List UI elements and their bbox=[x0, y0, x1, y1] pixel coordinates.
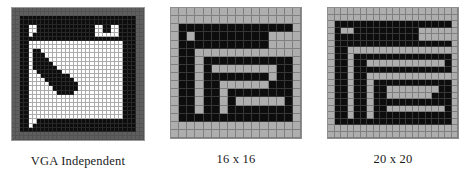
bitmap-cell bbox=[293, 49, 301, 57]
bitmap-cell bbox=[171, 130, 179, 138]
bitmap-cell bbox=[171, 24, 179, 32]
bitmap-cell bbox=[236, 16, 244, 24]
bitmap-cell bbox=[452, 132, 459, 139]
bitmap-cell bbox=[252, 130, 260, 138]
bitmap-cell bbox=[236, 114, 244, 122]
bitmap-cell bbox=[220, 114, 228, 122]
bitmap-cell bbox=[212, 32, 220, 40]
bitmap-cell bbox=[277, 49, 285, 57]
bitmap-cell bbox=[171, 32, 179, 40]
bitmap-cell bbox=[260, 122, 268, 130]
bitmap-cell bbox=[204, 106, 212, 114]
bitmap-cell bbox=[212, 24, 220, 32]
bitmap-cell bbox=[236, 65, 244, 73]
bitmap-cell bbox=[236, 81, 244, 89]
bitmap-cell bbox=[236, 32, 244, 40]
bitmap-cell bbox=[293, 106, 301, 114]
bitmap-cell bbox=[187, 114, 195, 122]
bitmap-cell bbox=[195, 106, 203, 114]
bitmap-cell bbox=[171, 65, 179, 73]
bitmap-cell bbox=[277, 130, 285, 138]
bitmap-cell bbox=[285, 73, 293, 81]
bitmap-cell bbox=[179, 8, 187, 16]
bitmap-cell bbox=[171, 97, 179, 105]
bitmap-cell bbox=[269, 41, 277, 49]
bitmap-cell bbox=[179, 57, 187, 65]
bitmap-cell bbox=[244, 89, 252, 97]
bitmap-cell bbox=[285, 89, 293, 97]
bitmap-cell bbox=[212, 8, 220, 16]
caption-vga-independent: VGA Independent bbox=[31, 154, 125, 169]
bitmap-cell bbox=[187, 130, 195, 138]
bitmap-icon-16x16 bbox=[171, 8, 301, 138]
bitmap-cell bbox=[204, 16, 212, 24]
bitmap-cell bbox=[228, 130, 236, 138]
bitmap-cell bbox=[195, 73, 203, 81]
bitmap-cell bbox=[204, 41, 212, 49]
bitmap-cell bbox=[212, 41, 220, 49]
bitmap-cell bbox=[269, 49, 277, 57]
bitmap-cell bbox=[187, 65, 195, 73]
bitmap-cell bbox=[212, 114, 220, 122]
bitmap-cell bbox=[277, 8, 285, 16]
bitmap-cell bbox=[293, 97, 301, 105]
bitmap-cell bbox=[204, 65, 212, 73]
bitmap-cell bbox=[204, 32, 212, 40]
bitmap-cell bbox=[269, 130, 277, 138]
bitmap-cell bbox=[187, 49, 195, 57]
bitmap-cell bbox=[236, 41, 244, 49]
bitmap-cell bbox=[195, 32, 203, 40]
bitmap-cell bbox=[252, 81, 260, 89]
bitmap-cell bbox=[195, 41, 203, 49]
bitmap-cell bbox=[277, 97, 285, 105]
bitmap-cell bbox=[179, 81, 187, 89]
bitmap-cell bbox=[260, 49, 268, 57]
bitmap-cell bbox=[171, 16, 179, 24]
bitmap-cell bbox=[244, 114, 252, 122]
caption-icon-20x20: 20 x 20 bbox=[374, 152, 413, 167]
bitmap-cell bbox=[228, 114, 236, 122]
bitmap-cell bbox=[228, 97, 236, 105]
bitmap-cell bbox=[236, 89, 244, 97]
bitmap-cell bbox=[244, 73, 252, 81]
bitmap-cell bbox=[179, 32, 187, 40]
bitmap-cell bbox=[204, 114, 212, 122]
bitmap-cell bbox=[220, 97, 228, 105]
bitmap-cell bbox=[293, 81, 301, 89]
bitmap-cell bbox=[187, 89, 195, 97]
bitmap-cell bbox=[179, 73, 187, 81]
bitmap-cell bbox=[285, 81, 293, 89]
bitmap-cell bbox=[260, 73, 268, 81]
bitmap-cell bbox=[293, 122, 301, 130]
bitmap-cell bbox=[195, 97, 203, 105]
bitmap-cell bbox=[195, 65, 203, 73]
bitmap-cell bbox=[171, 106, 179, 114]
bitmap-cell bbox=[212, 89, 220, 97]
bitmap-cell bbox=[179, 24, 187, 32]
bitmap-cell bbox=[252, 65, 260, 73]
bitmap-cell bbox=[195, 114, 203, 122]
bitmap-cell bbox=[171, 89, 179, 97]
bitmap-cell bbox=[236, 97, 244, 105]
bitmap-cell bbox=[171, 81, 179, 89]
bitmap-cell bbox=[179, 122, 187, 130]
bitmap-cell bbox=[195, 57, 203, 65]
bitmap-cell bbox=[171, 114, 179, 122]
bitmap-cell bbox=[269, 81, 277, 89]
bitmap-cell bbox=[293, 65, 301, 73]
bitmap-cell bbox=[269, 65, 277, 73]
bitmap-cell bbox=[260, 65, 268, 73]
bitmap-cell bbox=[204, 49, 212, 57]
bitmap-cell bbox=[187, 24, 195, 32]
bitmap-cell bbox=[179, 89, 187, 97]
bitmap-cell bbox=[277, 114, 285, 122]
bitmap-cell bbox=[252, 49, 260, 57]
bitmap-cell bbox=[236, 130, 244, 138]
bitmap-cell bbox=[171, 49, 179, 57]
bitmap-cell bbox=[252, 89, 260, 97]
bitmap-cell bbox=[293, 32, 301, 40]
bitmap-cell bbox=[187, 16, 195, 24]
bitmap-cell bbox=[228, 24, 236, 32]
bitmap-cell bbox=[293, 73, 301, 81]
bitmap-cell bbox=[179, 65, 187, 73]
